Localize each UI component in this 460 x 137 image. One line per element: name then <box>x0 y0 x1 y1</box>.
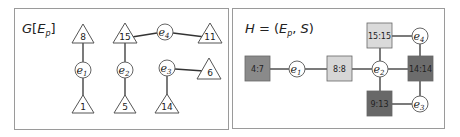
circle-node-e4: e4 <box>157 24 173 40</box>
svg-text:5: 5 <box>122 102 128 112</box>
svg-text:15:15: 15:15 <box>368 32 391 41</box>
svg-text:14: 14 <box>161 102 173 112</box>
svg-text:11: 11 <box>204 32 215 42</box>
svg-text:6: 6 <box>207 68 213 78</box>
circle-node-e2: e2 <box>117 62 133 78</box>
square-node-14-14: 14:14 <box>408 56 433 81</box>
svg-text:8: 8 <box>80 32 86 42</box>
svg-text:9:13: 9:13 <box>371 100 389 109</box>
circle-node-e3: e3 <box>159 60 175 76</box>
right-panel-title: H = (Ep, S) <box>245 21 314 38</box>
circle-node-e3: e3 <box>412 96 428 112</box>
svg-text:14:14: 14:14 <box>409 65 432 74</box>
square-node-15-15: 15:15 <box>367 23 392 48</box>
square-node-8-8: 8:8 <box>327 56 352 81</box>
circle-node-e1: e1 <box>75 62 91 78</box>
right-panel: H = (Ep, S) 4:7 8:8 15:15 <box>233 9 445 129</box>
left-panel-title: G[Ep] <box>22 21 56 38</box>
svg-text:15: 15 <box>119 32 130 42</box>
circle-node-e4: e4 <box>412 28 428 44</box>
svg-text:4:7: 4:7 <box>251 65 264 74</box>
circle-node-e2: e2 <box>372 61 388 77</box>
svg-text:1: 1 <box>80 102 86 112</box>
left-panel: G[Ep] 8 1 15 5 <box>15 9 229 130</box>
square-node-9-13: 9:13 <box>367 91 392 116</box>
square-node-4-7: 4:7 <box>245 56 270 81</box>
svg-text:8:8: 8:8 <box>333 65 346 74</box>
circle-node-e1: e1 <box>289 61 305 77</box>
